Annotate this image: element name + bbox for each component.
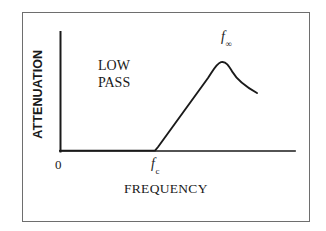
- response-curve: [60, 62, 257, 151]
- passband-region-label: LOW PASS: [98, 58, 130, 91]
- plot-graphics: [0, 0, 326, 231]
- x-axis-title: FREQUENCY: [124, 182, 208, 196]
- passband-label-line2: PASS: [98, 75, 130, 92]
- cutoff-frequency-subscript: c: [155, 166, 159, 176]
- passband-label-line1: LOW: [98, 58, 130, 75]
- pole-frequency-label: f∞: [221, 30, 231, 47]
- pole-frequency-subscript: ∞: [225, 39, 231, 49]
- figure-canvas: ATTENUATION LOW PASS 0 fc f∞ FREQUENCY: [0, 0, 326, 231]
- y-axis-title: ATTENUATION: [30, 38, 46, 150]
- origin-tick-label: 0: [55, 158, 62, 171]
- cutoff-frequency-label: fc: [151, 157, 159, 174]
- y-axis-title-text: ATTENUATION: [32, 50, 45, 139]
